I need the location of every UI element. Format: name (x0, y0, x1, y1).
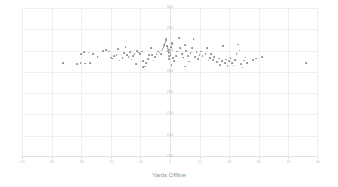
x-tick-label: 10 (198, 161, 202, 165)
y-tick-label: 220 (167, 134, 173, 138)
data-point (181, 53, 183, 55)
data-point (165, 40, 167, 42)
data-point (173, 60, 175, 62)
data-point (165, 41, 167, 43)
data-point (122, 57, 124, 59)
gridline-vertical (288, 8, 289, 157)
data-point (252, 59, 254, 61)
data-point (145, 62, 147, 64)
data-point (135, 63, 137, 65)
data-point (83, 51, 85, 53)
data-point (205, 53, 207, 55)
data-point (111, 58, 113, 60)
y-tick-label: 340 (167, 6, 173, 10)
data-point (113, 55, 115, 57)
x-axis-title: Yards Offline (0, 172, 338, 178)
data-point (182, 57, 184, 59)
data-point (240, 63, 242, 65)
data-point (218, 58, 220, 60)
data-point (305, 62, 307, 64)
data-point (162, 48, 164, 50)
data-point (206, 47, 208, 49)
data-point (128, 56, 130, 58)
data-point (142, 60, 144, 62)
y-tick-label: 320 (167, 27, 173, 31)
data-point (150, 47, 152, 49)
data-point (224, 62, 226, 64)
data-point (151, 54, 153, 56)
x-tick-mark (111, 157, 112, 159)
data-point (185, 50, 187, 52)
data-point (102, 50, 104, 52)
data-point (131, 59, 133, 61)
x-tick-label: 40 (286, 161, 290, 165)
data-point (175, 55, 177, 57)
data-point (129, 51, 131, 53)
data-point (231, 62, 233, 64)
gridline-vertical (200, 8, 201, 157)
y-tick-label: 260 (167, 91, 173, 95)
data-point (92, 53, 94, 55)
data-point (153, 60, 155, 62)
x-tick-mark (288, 157, 289, 159)
data-point (237, 44, 239, 46)
data-point (212, 59, 214, 61)
data-point (116, 54, 118, 56)
x-tick-mark (52, 157, 53, 159)
y-tick-label: 240 (167, 113, 173, 117)
data-point (117, 48, 119, 50)
data-point (242, 67, 244, 69)
data-point (243, 60, 245, 62)
x-tick-mark (200, 157, 201, 159)
data-point (261, 56, 263, 58)
data-point (230, 57, 232, 59)
data-point (170, 54, 172, 56)
gridline-vertical (111, 8, 112, 157)
data-point (172, 57, 174, 59)
x-tick-mark (229, 157, 230, 159)
data-point (213, 56, 215, 58)
data-point (179, 47, 181, 49)
data-point (202, 55, 204, 57)
data-point (89, 62, 91, 64)
data-point (156, 53, 158, 55)
data-point (161, 50, 163, 52)
data-point (171, 44, 173, 46)
x-tick-mark (259, 157, 260, 159)
data-point (147, 58, 149, 60)
x-tick-label: 30 (257, 161, 261, 165)
data-point (193, 38, 195, 40)
data-point (246, 62, 248, 64)
data-point (125, 46, 127, 48)
data-point (123, 52, 125, 54)
x-tick-mark (81, 157, 82, 159)
data-point (239, 50, 241, 52)
data-point (209, 57, 211, 59)
data-point (228, 60, 230, 62)
data-point (139, 53, 141, 55)
data-point (171, 64, 173, 66)
x-tick-label: -40 (49, 161, 54, 165)
data-point (187, 55, 189, 57)
data-point (134, 53, 136, 55)
data-point (216, 61, 218, 63)
data-point (160, 53, 162, 55)
data-point (132, 55, 134, 57)
x-tick-label: 50 (316, 161, 320, 165)
data-point (222, 45, 224, 47)
data-point (221, 60, 223, 62)
scatter-chart: 200220240260280300320340 -50-40-30-20-10… (0, 0, 338, 187)
data-point (190, 52, 192, 54)
data-point (255, 58, 257, 60)
gridline-vertical (259, 8, 260, 157)
data-point (194, 56, 196, 58)
x-tick-mark (22, 157, 23, 159)
data-point (119, 60, 121, 62)
gridline-vertical (229, 8, 230, 157)
data-point (234, 59, 236, 61)
data-point (191, 47, 193, 49)
y-tick-label: 280 (167, 70, 173, 74)
data-point (168, 58, 170, 60)
data-point (208, 60, 210, 62)
data-point (148, 54, 150, 56)
